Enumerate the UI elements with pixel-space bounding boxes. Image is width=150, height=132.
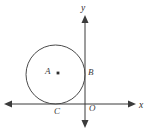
tangent-point-c-label: C [54, 107, 60, 116]
origin-label: O [89, 104, 96, 113]
circle-center-dot [57, 72, 60, 75]
geometry-canvas [0, 0, 150, 132]
y-axis-label: y [81, 4, 85, 14]
circle-center-label: A [45, 67, 51, 76]
x-axis-left-arrowhead [4, 101, 12, 108]
x-axis-label: x [139, 101, 143, 111]
tangent-point-b-label: B [88, 68, 94, 77]
x-axis-right-arrowhead [128, 101, 136, 108]
y-axis-top-arrowhead [82, 15, 89, 23]
circle-shape [26, 45, 85, 104]
y-axis-bottom-arrowhead [82, 120, 89, 128]
geometry-figure: y x A B C O [0, 0, 150, 132]
